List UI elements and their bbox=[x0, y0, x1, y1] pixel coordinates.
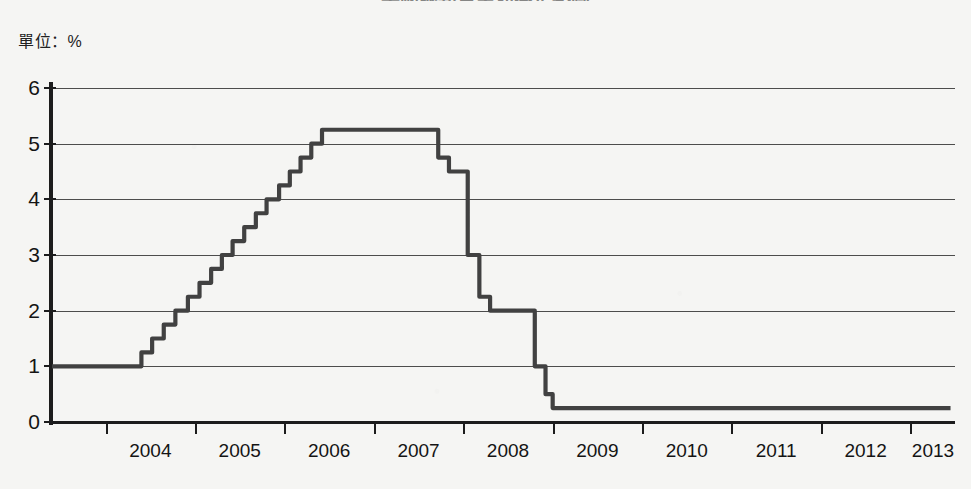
x-axis-tick-label: 2005 bbox=[219, 440, 261, 462]
series-line-federal-funds-rate bbox=[0, 0, 971, 489]
x-axis-tick-label: 2007 bbox=[397, 440, 439, 462]
y-axis-tick-label: 2 bbox=[14, 300, 40, 321]
gridline bbox=[52, 366, 955, 367]
y-axis-tick bbox=[44, 421, 56, 423]
y-axis-tick bbox=[44, 87, 56, 89]
x-axis-tick-label: 2008 bbox=[487, 440, 529, 462]
x-axis-tick-label: 2012 bbox=[844, 440, 886, 462]
unit-label: 單位：% bbox=[18, 28, 82, 52]
y-axis-tick bbox=[44, 254, 56, 256]
x-axis-tick-label: 2011 bbox=[756, 440, 797, 462]
x-axis-tick bbox=[731, 422, 733, 434]
x-axis-tick bbox=[553, 422, 555, 434]
paper-grain bbox=[0, 0, 971, 489]
y-axis-tick-label: 1 bbox=[14, 355, 40, 376]
gridline bbox=[52, 311, 955, 312]
gridline bbox=[52, 255, 955, 256]
x-axis-tick bbox=[463, 422, 465, 434]
chart-title: 美國聯邦資金利率走勢圖 bbox=[0, 0, 971, 1]
gridline bbox=[52, 421, 955, 424]
chart-figure: 美國聯邦資金利率走勢圖 單位：% 0123456 200420052006200… bbox=[0, 0, 971, 489]
gridline bbox=[52, 144, 955, 145]
x-axis-tick-label: 2006 bbox=[308, 440, 350, 462]
y-axis-tick bbox=[44, 198, 56, 200]
x-axis-tick bbox=[642, 422, 644, 434]
gridline bbox=[52, 88, 955, 89]
x-axis-tick-label: 2009 bbox=[576, 440, 618, 462]
y-axis-tick-label: 4 bbox=[14, 188, 40, 209]
x-axis-tick bbox=[910, 422, 912, 434]
y-axis-tick-label: 3 bbox=[14, 244, 40, 265]
y-axis-tick-label: 5 bbox=[14, 133, 40, 154]
x-axis-tick bbox=[195, 422, 197, 434]
x-axis-tick-label: 2004 bbox=[129, 440, 171, 462]
gridline bbox=[52, 199, 955, 200]
x-axis-tick bbox=[374, 422, 376, 434]
y-axis-tick bbox=[44, 143, 56, 145]
y-axis-tick bbox=[44, 365, 56, 367]
y-axis-tick-label: 0 bbox=[14, 411, 40, 432]
x-axis-tick bbox=[284, 422, 286, 434]
x-axis-tick bbox=[821, 422, 823, 434]
y-axis-tick-label: 6 bbox=[14, 77, 40, 98]
y-axis-tick bbox=[44, 310, 56, 312]
x-axis-tick bbox=[106, 422, 108, 434]
x-axis-tick-label: 2010 bbox=[666, 440, 708, 462]
x-axis-tick-label: 2013 bbox=[912, 440, 954, 462]
